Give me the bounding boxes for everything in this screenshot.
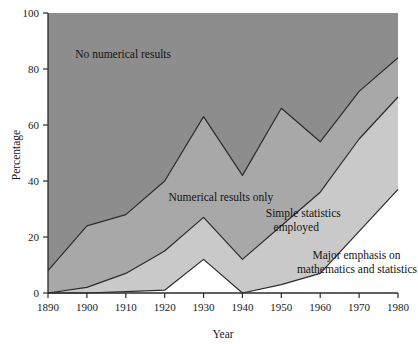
y-tick-label: 100	[23, 7, 40, 19]
area-chart: 020406080100 189019001910192019301940195…	[0, 0, 418, 344]
series-annotation-3: employed	[274, 221, 320, 234]
x-tick-label: 1960	[309, 301, 332, 313]
series-annotation-2: Simple statistics	[266, 207, 342, 220]
x-tick-label: 1950	[270, 301, 293, 313]
x-tick-label: 1940	[231, 301, 254, 313]
x-tick-label: 1910	[115, 301, 138, 313]
y-tick-label: 0	[34, 287, 40, 299]
x-tick-label: 1890	[37, 301, 60, 313]
y-axis-ticks: 020406080100	[23, 7, 49, 299]
y-tick-label: 40	[28, 175, 40, 187]
series-annotation-1: Numerical results only	[169, 191, 274, 204]
y-tick-label: 80	[28, 63, 40, 75]
y-axis-title: Percentage	[10, 130, 23, 180]
x-tick-label: 1970	[348, 301, 371, 313]
series-annotation-4: Major emphasis on	[312, 249, 400, 262]
series-annotation-5: mathematics and statistics	[297, 263, 418, 275]
x-tick-label: 1930	[193, 301, 216, 313]
x-tick-label: 1980	[387, 301, 410, 313]
x-axis-title: Year	[212, 328, 233, 340]
figure-container: 020406080100 189019001910192019301940195…	[0, 0, 418, 344]
x-axis-ticks: 1890190019101920193019401950196019701980	[37, 293, 410, 313]
y-tick-label: 20	[28, 231, 40, 243]
x-tick-label: 1900	[76, 301, 99, 313]
y-tick-label: 60	[28, 119, 40, 131]
x-tick-label: 1920	[154, 301, 177, 313]
series-annotation-0: No numerical results	[75, 48, 171, 60]
